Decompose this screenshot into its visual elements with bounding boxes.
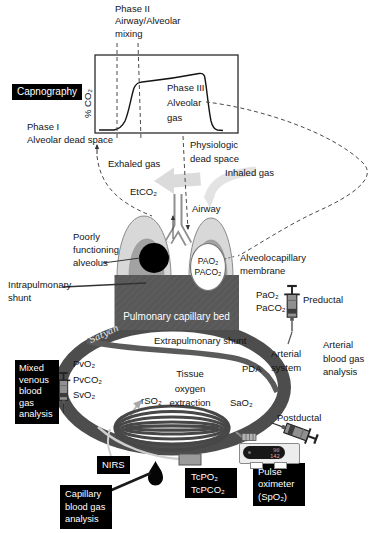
alveolocapillary-membrane-label: Alveolocapillary membrane [240,251,306,277]
venous-values: PvO₂ PvCO₂ SvO₂ [73,356,102,403]
pda-label: PDA [242,362,262,375]
tissue-capillary-coil [115,406,229,450]
capnography-physiology-diagram: Phase II Airway/Alveolar mixing Capnogra… [0,0,381,533]
exhaled-flow-arrow [154,168,201,195]
sao2-label: SaO₂ [230,396,253,409]
preductal-syringe-icon [284,286,300,332]
transcutaneous-badge: TcPO₂ TcPCO₂ [185,468,237,498]
poorly-functioning-alveolus-label: Poorly functioning alveolus [73,230,119,269]
pulse-oximeter-device: 90 142 [239,443,300,464]
pulse-oximeter-badge: Pulse oximeter (SpO₂) [253,463,305,506]
inhaled-gas-label: Inhaled gas [225,166,274,179]
preductal-values: PaO₂ PaCO₂ [256,288,286,314]
intrapulmonary-shunt-label: Intrapulmonary shunt [8,278,71,304]
poorly-functioning-alveolus-shape [139,243,169,273]
oximeter-display: 90 142 [243,446,285,459]
capnography-badge: Capnography [12,84,82,100]
nirs-badge: NIRS [97,456,130,474]
etco2-label: EtCO₂ [130,185,157,198]
arterial-system-label: Arterial system [271,347,301,375]
arterial-bga-label: Arterial blood gas analysis [323,338,364,379]
airway-label: Airway [192,202,221,215]
capillary-bga-badge: Capillary blood gas analysis [60,485,112,529]
oximeter-indicator-dot [248,451,251,454]
postductal-label: Postductal [277,411,321,424]
rso2-label: rSO₂ [141,394,162,407]
preductal-connector [288,332,292,344]
oximeter-cable-connector [242,434,256,441]
oximeter-pulse-reading: 142 [270,453,280,459]
exhaled-gas-label: Exhaled gas [108,157,160,170]
capillary-bga-leader [107,473,151,492]
alveolar-gas-values: PAO₂ PACO₂ [188,256,228,278]
physiologic-dead-space-label: Physiologic dead space [190,138,239,165]
tissue-oxygen-extraction-label: Tissue oxygen extraction [160,367,220,411]
airway-tube [169,193,189,244]
phase2-label: Phase II Airway/Alveolar mixing [115,3,180,40]
phase2-boundary-line-right [138,43,141,140]
phase3-label: Phase III Alveolar gas [167,80,205,125]
mixed-venous-bga-badge: Mixed venous blood gas analysis [15,360,59,424]
pulmonary-capillary-bed-label: Pulmonary capillary bed [114,310,239,323]
oximeter-tab-left [250,462,263,469]
preductal-label: Preductal [303,293,343,306]
oximeter-tab-right [274,462,287,469]
extrapulmonary-shunt-label: Extrapulmonary shunt [154,334,246,347]
phase1-label: Phase I Alveolar dead space [27,120,113,146]
tc-sensor [179,454,201,465]
